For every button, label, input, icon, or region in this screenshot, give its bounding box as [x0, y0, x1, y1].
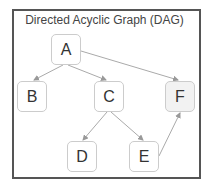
edge-c-d: [83, 112, 107, 140]
node-e: E: [129, 141, 159, 172]
node-a: A: [51, 34, 81, 65]
node-b: B: [17, 81, 47, 112]
edge-a-c: [68, 65, 106, 80]
edge-c-e: [111, 112, 143, 140]
node-d: D: [67, 141, 97, 172]
node-f: F: [165, 81, 195, 112]
edge-a-b: [34, 65, 63, 80]
edge-e-f: [159, 113, 180, 156]
node-c: C: [94, 81, 124, 112]
